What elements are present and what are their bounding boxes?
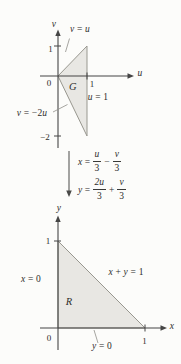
edge-label-x-equals-0: x = 0 <box>21 275 41 285</box>
x1-tick-label: 1 <box>142 337 147 346</box>
figure-canvas: v u 0 1 1 −2 v = u G u = 1 v = −2u x = u… <box>0 0 181 364</box>
region-r-label: R <box>66 297 73 308</box>
region-g-label: G <box>69 82 77 93</box>
v1-tick-label: 1 <box>48 44 53 53</box>
y-axis-label: y <box>57 204 61 214</box>
edge-label-y-equals-0: y = 0 <box>92 342 112 352</box>
region-r-triangle <box>58 241 145 328</box>
vu-leader-line <box>66 39 70 53</box>
y-axis-arrowhead-icon <box>55 216 60 223</box>
fraction-u-over-3: u3 <box>93 150 102 173</box>
edge-label-u-equals-1: u = 1 <box>88 93 109 103</box>
u-axis-arrowhead-icon <box>128 73 135 78</box>
u1-tick-label: 1 <box>90 80 95 89</box>
u-axis-label: u <box>138 69 143 79</box>
x-axis-arrowhead-icon <box>161 325 168 330</box>
edge-label-x-plus-y-equals-1: x + y = 1 <box>108 268 143 278</box>
vneg2u-leader-line <box>53 105 68 113</box>
uv-origin-label: 0 <box>47 79 52 88</box>
edge-label-v-equals-neg2u: v = −2u <box>17 109 48 119</box>
v-axis-label: v <box>52 20 56 30</box>
transform-arrow-arrowhead-icon <box>66 191 72 198</box>
fraction-v-over-3: v3 <box>117 178 125 201</box>
edge-label-v-equals-u: v = u <box>70 25 90 35</box>
transform-equations: x = u3 − v3 y = 2u3 + v3 <box>78 150 126 206</box>
fraction-v-over-3: v3 <box>113 150 121 173</box>
v-axis-arrowhead-icon <box>55 30 60 37</box>
xy-origin-label: 0 <box>47 334 52 343</box>
y1-tick-label: 1 <box>46 237 51 246</box>
x-axis-label: x <box>170 322 174 332</box>
fraction-2u-over-3: 2u3 <box>93 178 107 201</box>
vneg2-tick-label: −2 <box>40 133 50 142</box>
equation-y: y = 2u3 + v3 <box>78 178 126 201</box>
equation-x: x = u3 − v3 <box>78 150 126 173</box>
